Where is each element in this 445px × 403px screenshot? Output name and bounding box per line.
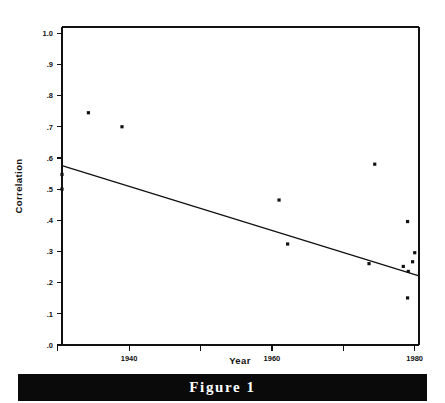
y-tick-label: .6 (47, 154, 53, 163)
y-tick-label: .2 (47, 278, 53, 287)
data-points (60, 111, 416, 299)
y-tick-label: 1.0 (43, 29, 53, 38)
y-axis-ticks: .0.1.2.3.4.5.6.7.8.91.0 (43, 29, 62, 350)
x-axis-title: Year (229, 355, 251, 366)
data-point-marker (60, 188, 63, 191)
data-point-marker (60, 173, 63, 176)
y-tick-label: .9 (47, 60, 53, 69)
x-tick-label: 1940 (121, 354, 138, 363)
x-tick-label: 1960 (264, 354, 281, 363)
data-point-marker (286, 242, 289, 245)
data-point-marker (373, 163, 376, 166)
data-point-marker (413, 251, 416, 254)
data-point-marker (411, 260, 414, 263)
data-point-marker (407, 270, 410, 273)
y-tick-label: .1 (47, 310, 53, 319)
data-point-marker (120, 125, 123, 128)
data-point-marker (87, 111, 90, 114)
trend-line (62, 166, 419, 276)
y-tick-label: .3 (47, 247, 53, 256)
figure-caption-bar: Figure 1 (18, 374, 427, 401)
plot-canvas: .0.1.2.3.4.5.6.7.8.91.0 194019601980 Cor… (0, 0, 445, 366)
y-tick-label: .8 (47, 91, 53, 100)
data-point-marker (402, 265, 405, 268)
data-point-marker (406, 220, 409, 223)
y-axis-title: Correlation (13, 158, 24, 213)
y-tick-label: .4 (47, 216, 54, 225)
data-point-marker (367, 262, 370, 265)
data-point-marker (277, 198, 280, 201)
regression-line (62, 166, 419, 276)
figure-caption-text: Figure 1 (189, 379, 255, 396)
y-tick-label: .5 (47, 185, 53, 194)
plot-frame (62, 27, 419, 345)
x-tick-label: 1980 (406, 354, 423, 363)
data-point-marker (406, 296, 409, 299)
figure-container: .0.1.2.3.4.5.6.7.8.91.0 194019601980 Cor… (0, 0, 445, 403)
y-tick-label: .0 (47, 341, 53, 350)
y-tick-label: .7 (47, 123, 53, 132)
scatter-plot: .0.1.2.3.4.5.6.7.8.91.0 194019601980 Cor… (0, 0, 445, 366)
